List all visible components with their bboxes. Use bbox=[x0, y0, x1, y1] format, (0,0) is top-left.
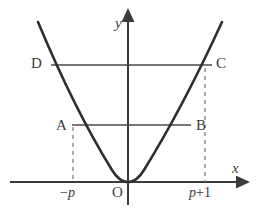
figure-canvas bbox=[0, 0, 261, 223]
point-label-a: A bbox=[56, 118, 67, 133]
point-label-b: B bbox=[196, 118, 206, 133]
math-figure: D C A B O y x −p p+1 bbox=[0, 0, 261, 223]
y-axis-label: y bbox=[115, 16, 122, 31]
tick-label-p-plus-1: p+1 bbox=[189, 186, 211, 200]
tick-one: 1 bbox=[204, 185, 211, 200]
x-axis-label: x bbox=[232, 161, 239, 176]
parabola-curve bbox=[38, 22, 222, 182]
point-label-c: C bbox=[216, 56, 226, 71]
minus-sign: − bbox=[60, 185, 68, 200]
point-label-d: D bbox=[31, 56, 42, 71]
tick-variable-left: p bbox=[68, 185, 75, 200]
tick-label-minus-p: −p bbox=[60, 186, 75, 200]
tick-variable-right: p bbox=[189, 185, 196, 200]
origin-label: O bbox=[112, 185, 123, 200]
plus-sign: + bbox=[196, 185, 204, 200]
